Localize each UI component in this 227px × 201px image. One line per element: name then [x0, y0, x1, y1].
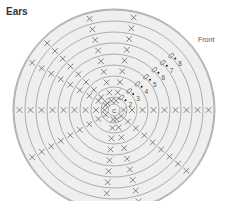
- round-start-dot-icon: [166, 65, 168, 67]
- round-number: 2: [128, 101, 132, 108]
- round-start-dot-icon: [141, 86, 143, 88]
- round-number: 6: [161, 74, 165, 81]
- round-start-dot-icon: [124, 99, 126, 101]
- round-number: 4: [145, 88, 149, 95]
- round-start-dot-icon: [174, 58, 176, 60]
- round-start-dot-icon: [132, 93, 134, 95]
- round-start-dot-icon: [149, 79, 151, 81]
- center-label: C: [112, 108, 117, 114]
- round-number: 3: [136, 95, 140, 102]
- round-start-dot-icon: [157, 72, 159, 74]
- round-number: 7: [170, 67, 174, 74]
- round-number: 5: [153, 81, 157, 88]
- round-number: 8: [178, 60, 182, 67]
- crochet-chart: 2345678C: [0, 0, 227, 201]
